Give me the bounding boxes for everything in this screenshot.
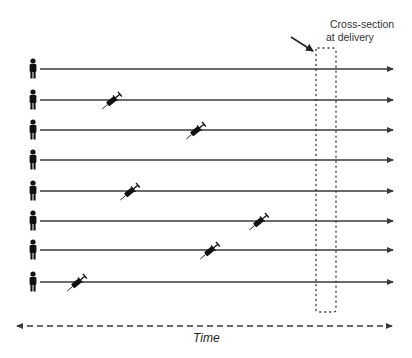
timeline-row [30,239,393,261]
timeline-row [30,271,393,293]
person-icon [30,119,37,139]
syringe-icon [65,273,87,293]
person-icon [30,89,37,109]
timeline-diagram [0,0,412,358]
annotation-line1: Cross-section [330,18,394,31]
timeline-row [30,58,393,78]
person-icon [30,210,37,230]
syringe-icon [118,182,140,202]
annotation-line2: at delivery [326,31,394,44]
person-icon [30,271,37,291]
person-icon [30,180,37,200]
person-icon [30,58,37,78]
timeline-row [30,210,393,232]
person-icon [30,149,37,169]
timeline-row [30,89,393,111]
timeline-rows [30,58,393,293]
syringe-icon [184,121,206,141]
timeline-row [30,119,393,141]
syringe-icon [247,212,269,232]
timeline-row [30,149,393,169]
annotation-arrow-icon [291,37,313,51]
cross-section-box [316,48,336,312]
cross-section-annotation: Cross-section at delivery [330,18,394,44]
timeline-row [30,180,393,202]
time-axis-label: Time [193,331,220,345]
syringe-icon [100,91,122,111]
person-icon [30,239,37,259]
syringe-icon [198,241,220,261]
